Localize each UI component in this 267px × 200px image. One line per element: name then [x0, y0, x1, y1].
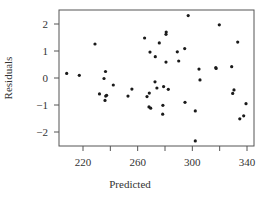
data-point: [244, 102, 247, 105]
data-point: [236, 41, 239, 44]
data-point: [232, 88, 235, 91]
data-point: [78, 74, 81, 77]
data-point: [126, 95, 129, 98]
data-point: [93, 42, 96, 45]
data-point: [145, 95, 148, 98]
data-points: [65, 14, 248, 142]
data-point: [183, 101, 186, 104]
y-tick-label: 2: [43, 18, 49, 30]
data-point: [161, 113, 164, 116]
data-point: [143, 36, 146, 39]
data-point: [130, 88, 133, 91]
data-point: [65, 72, 68, 75]
x-axis: 220260300340: [75, 146, 256, 168]
data-point: [238, 117, 241, 120]
data-point: [98, 92, 101, 95]
data-point: [102, 77, 105, 80]
data-point: [198, 78, 201, 81]
data-point: [194, 139, 197, 142]
data-point: [158, 41, 161, 44]
x-tick-label: 220: [75, 156, 92, 168]
data-point: [161, 104, 164, 107]
data-point: [104, 70, 107, 73]
data-point: [177, 59, 180, 62]
data-point: [164, 33, 167, 36]
data-point: [194, 109, 197, 112]
data-point: [218, 23, 221, 26]
data-point: [149, 107, 152, 110]
data-point: [183, 47, 186, 50]
data-point: [164, 61, 167, 64]
y-axis: 210−1−2: [36, 18, 59, 138]
x-axis-label: Predicted: [109, 178, 151, 190]
residual-scatter-plot: 210−1−2 220260300340 Predicted Residuals: [0, 0, 267, 200]
data-point: [197, 68, 200, 71]
data-point: [242, 114, 245, 117]
data-point: [167, 88, 170, 91]
plot-frame: [59, 10, 254, 146]
x-tick-label: 260: [129, 156, 146, 168]
data-point: [176, 50, 179, 53]
data-point: [103, 99, 106, 102]
y-tick-label: 0: [43, 72, 49, 84]
data-point: [230, 65, 233, 68]
y-tick-label: 1: [43, 45, 49, 57]
data-point: [214, 66, 217, 69]
data-point: [148, 51, 151, 54]
data-point: [112, 83, 115, 86]
data-point: [154, 55, 157, 58]
x-tick-label: 300: [184, 156, 201, 168]
data-point: [155, 86, 158, 89]
data-point: [162, 85, 165, 88]
y-axis-label: Residuals: [2, 57, 14, 100]
data-point: [153, 80, 156, 83]
data-point: [148, 92, 151, 95]
data-point: [187, 14, 190, 17]
data-point: [104, 95, 107, 98]
y-tick-label: −1: [36, 99, 48, 111]
x-tick-label: 340: [239, 156, 256, 168]
y-tick-label: −2: [36, 126, 48, 138]
data-point: [231, 92, 234, 95]
